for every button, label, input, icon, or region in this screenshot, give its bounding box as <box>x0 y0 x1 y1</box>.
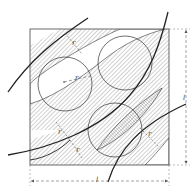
dimension-bottom: l <box>30 165 169 186</box>
diagram-canvas: r r r r r l l <box>0 0 192 189</box>
dimension-right: l <box>169 29 190 165</box>
side-label-bottom: l <box>96 176 98 184</box>
side-label-right: l <box>183 94 185 102</box>
